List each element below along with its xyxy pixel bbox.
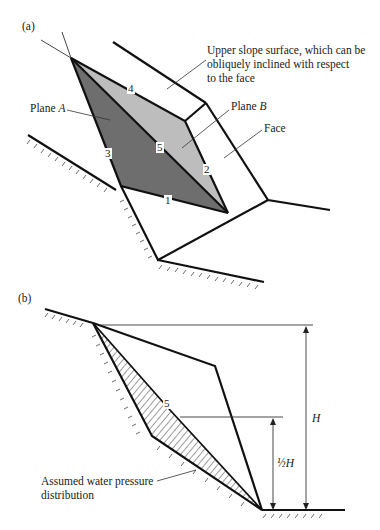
ground-hatching-b [45,313,322,518]
svg-text:4: 4 [128,82,134,94]
height-label: H [311,412,321,424]
part-a-diagram: (a) 4 3 [22,20,365,289]
part-b-label: (b) [18,292,32,305]
water-pressure-annotation-line1: Assumed water pressure [41,475,153,488]
svg-text:5: 5 [164,397,170,409]
face-leader [224,130,262,158]
plane-a-label: Plane A [30,102,66,114]
apex-extension-line [62,32,71,58]
part-a-label: (a) [22,20,35,33]
water-pressure-annotation-line2: distribution [41,489,94,501]
upper-slope-leader [167,60,206,89]
upper-slope-annotation-line3: to the face [207,72,255,84]
line-number-1: 1 [164,194,172,206]
crest-corner [185,103,206,121]
face-right-edge [206,103,330,210]
svg-text:1: 1 [165,194,171,206]
face-label: Face [264,122,286,134]
line-number-3: 3 [104,147,112,159]
ground-line-bottom [158,260,264,282]
wedge-failure-figure: (a) 4 3 [0,0,380,530]
line-number-5: 5 [156,141,164,153]
arrow-up-icon [270,418,276,425]
svg-text:5: 5 [157,141,163,153]
upper-slope-annotation-line2: obliquely inclined with respect [207,58,350,71]
ground-line-left [28,135,116,190]
half-height-label: ½H [277,457,295,469]
line-number-2: 2 [203,163,211,175]
part-b-diagram: (b) H ½H 5 Assumed w [18,292,345,518]
plane-b-label: Plane B [231,100,266,112]
water-pressure-leader [157,470,196,481]
line-number-4: 4 [127,82,135,94]
line-number-5-b: 5 [163,397,171,409]
arrow-up-icon [303,326,309,333]
svg-text:3: 3 [105,147,111,159]
apex-extension-line [41,40,71,58]
svg-text:2: 2 [204,163,210,175]
ground-surface [45,309,93,323]
upper-slope-annotation-line1: Upper slope surface, which can be [207,44,365,57]
